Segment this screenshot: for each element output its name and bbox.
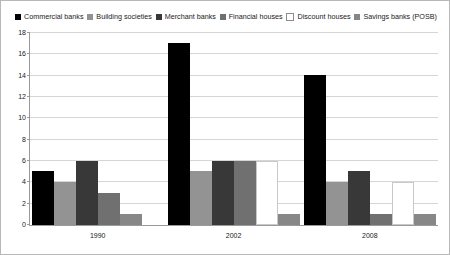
legend-item[interactable]: Merchant banks <box>156 13 216 21</box>
y-axis-tick-label: 16 <box>18 50 26 57</box>
y-axis-tick-label: 14 <box>18 71 26 78</box>
legend-item[interactable]: Discount houses <box>286 13 350 21</box>
y-axis-tick-label: 18 <box>18 29 26 36</box>
bar[interactable] <box>256 161 278 225</box>
bar[interactable] <box>76 161 98 225</box>
x-axis-group-label: 1990 <box>30 232 165 239</box>
plot-area: 024681012141618 199020022008 <box>29 33 438 226</box>
y-axis-tick-label: 4 <box>22 178 26 185</box>
bar[interactable] <box>348 171 370 225</box>
legend-item[interactable]: Savings banks (POSB) <box>354 13 437 21</box>
legend-swatch-icon <box>15 14 21 20</box>
bar[interactable] <box>234 161 256 225</box>
bar[interactable] <box>392 182 414 225</box>
y-axis-tick-label: 12 <box>18 93 26 100</box>
bar[interactable] <box>304 75 326 225</box>
bar[interactable] <box>212 161 234 225</box>
chart-legend: Commercial banksBuilding societiesMercha… <box>6 6 444 28</box>
bar-group: 2008 <box>302 33 438 225</box>
legend-item-label: Financial houses <box>229 13 283 21</box>
y-axis-tick-label: 6 <box>22 157 26 164</box>
bar[interactable] <box>326 182 348 225</box>
bar[interactable] <box>98 193 120 225</box>
bar-chart-figure: Commercial banksBuilding societiesMercha… <box>0 0 450 255</box>
bar[interactable] <box>190 171 212 225</box>
legend-swatch-icon <box>220 14 226 20</box>
bar[interactable] <box>278 214 300 225</box>
bar[interactable] <box>54 182 76 225</box>
legend-swatch-icon <box>286 13 294 21</box>
bar[interactable] <box>370 214 392 225</box>
x-axis-group-label: 2002 <box>165 232 301 239</box>
y-axis-tick-label: 10 <box>18 114 26 121</box>
legend-item-label: Commercial banks <box>24 13 84 21</box>
bars-layer: 199020022008 <box>30 33 438 225</box>
y-axis-tick-label: 0 <box>22 221 26 228</box>
y-axis-tick-label: 8 <box>22 135 26 142</box>
bar[interactable] <box>414 214 436 225</box>
bar[interactable] <box>168 43 190 225</box>
legend-item-label: Savings banks (POSB) <box>363 13 437 21</box>
legend-swatch-icon <box>87 14 93 20</box>
legend-item-label: Merchant banks <box>165 13 216 21</box>
bar[interactable] <box>32 171 54 225</box>
x-axis-group-label: 2008 <box>302 232 438 239</box>
legend-swatch-icon <box>156 14 162 20</box>
legend-item[interactable]: Commercial banks <box>15 13 84 21</box>
bar[interactable] <box>120 214 142 225</box>
y-axis-tick-label: 2 <box>22 199 26 206</box>
legend-item[interactable]: Building societies <box>87 13 152 21</box>
legend-item[interactable]: Financial houses <box>220 13 283 21</box>
legend-swatch-icon <box>354 14 360 20</box>
bar-group: 2002 <box>165 33 301 225</box>
legend-item-label: Discount houses <box>297 13 350 21</box>
legend-item-label: Building societies <box>96 13 152 21</box>
bar-group: 1990 <box>30 33 165 225</box>
